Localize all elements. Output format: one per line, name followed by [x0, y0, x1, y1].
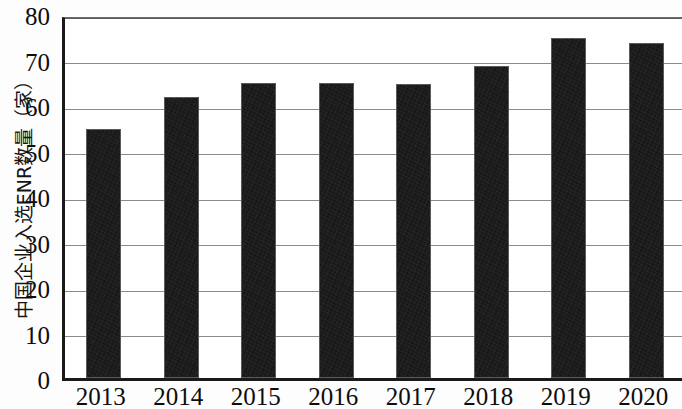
y-axis-tick-label: 40	[0, 186, 50, 211]
x-axis-tick-labels: 20132014201520162017201820192020	[62, 384, 682, 409]
x-axis-tick-label: 2017	[372, 384, 450, 409]
y-axis-tick-label: 10	[0, 323, 50, 348]
x-axis-tick-label: 2016	[295, 384, 373, 409]
x-axis-tick-label: 2020	[605, 384, 682, 409]
bar	[319, 83, 354, 378]
bar-chart: 中国企业入选ENR数量（家） 01020304050607080 2013201…	[0, 0, 682, 409]
y-axis-tick-label: 80	[0, 4, 50, 29]
bar	[86, 129, 121, 378]
bar	[396, 84, 431, 378]
bar	[164, 97, 199, 378]
x-axis-tick-label: 2013	[62, 384, 140, 409]
y-axis-tick-label: 20	[0, 277, 50, 302]
bar	[629, 43, 664, 378]
y-axis-tick-label: 60	[0, 95, 50, 120]
y-axis-tick-label: 0	[0, 368, 50, 393]
bar	[474, 66, 509, 378]
x-axis-tick-label: 2019	[527, 384, 605, 409]
x-axis-tick-label: 2014	[140, 384, 218, 409]
y-axis-tick-labels: 01020304050607080	[0, 0, 60, 409]
y-axis-tick-label: 30	[0, 232, 50, 257]
bar	[241, 83, 276, 378]
plot-area	[62, 17, 682, 381]
bars-layer	[65, 18, 682, 378]
y-axis-tick-label: 50	[0, 141, 50, 166]
y-axis-tick-label: 70	[0, 50, 50, 75]
x-axis-tick-label: 2018	[450, 384, 528, 409]
bar	[551, 38, 586, 378]
x-axis-tick-label: 2015	[217, 384, 295, 409]
